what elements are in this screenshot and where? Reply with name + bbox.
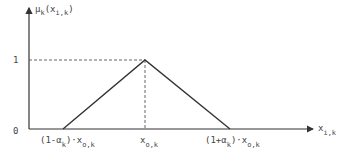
left-base-label: (1-αk)·xo,k xyxy=(40,135,96,149)
peak-label: xo,k xyxy=(140,135,159,149)
y-axis-label: μk(xi,k) xyxy=(35,4,74,17)
triangle-membership-curve xyxy=(63,60,230,129)
y-tick-one: 1 xyxy=(13,55,18,65)
membership-function-diagram: μk(xi,k) 1 0 xi,k (1-αk)·xo,k xo,k (1+αk… xyxy=(0,0,353,156)
x-axis-label: xi,k xyxy=(318,123,337,137)
right-base-label: (1+αk)·xo,k xyxy=(205,135,261,149)
origin-label: 0 xyxy=(13,126,18,136)
